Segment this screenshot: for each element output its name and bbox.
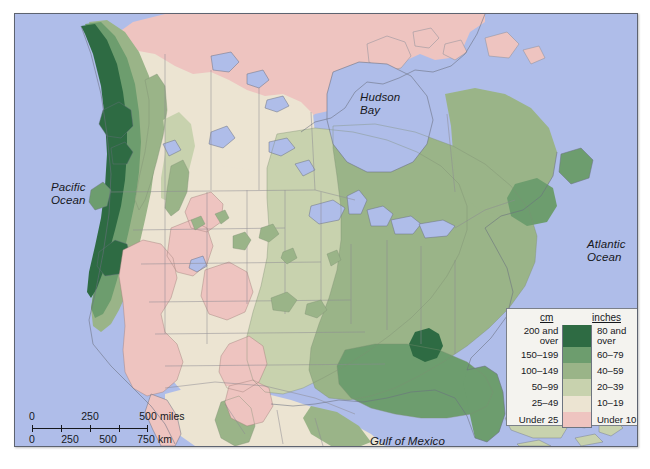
map-frame: Pacific Ocean Hudson Bay Atlantic Ocean …: [14, 13, 638, 447]
legend-swatch: [562, 412, 592, 428]
legend-inches-label: 40–59: [592, 363, 638, 379]
legend-cm-label: 200 and over: [512, 325, 562, 347]
legend-cm-label: 50–99: [512, 379, 562, 395]
legend-cm-label: Under 25: [512, 412, 562, 428]
legend-header-cm: cm: [540, 312, 553, 325]
scale-axis: [28, 425, 208, 432]
scale-km-labels: 0 250 500 750 km: [28, 433, 208, 447]
legend-swatch: [562, 363, 592, 379]
hudson-bay-label: Hudson Bay: [360, 91, 400, 117]
legend-swatch: [562, 347, 592, 363]
legend: cm inches 200 and over 80 and over 150–1…: [506, 308, 638, 426]
legend-swatch: [562, 396, 592, 412]
legend-cm-label: 150–199: [512, 347, 562, 363]
legend-row: 100–149 40–59: [512, 363, 638, 379]
legend-row: 200 and over 80 and over: [512, 325, 638, 347]
legend-row: 25–49 10–19: [512, 396, 638, 412]
gulf-of-mexico-label: Gulf of Mexico: [370, 435, 445, 447]
legend-swatch: [562, 325, 592, 347]
legend-cm-label: 25–49: [512, 396, 562, 412]
legend-row: 150–199 60–79: [512, 347, 638, 363]
legend-inches-label: 60–79: [592, 347, 638, 363]
scale-bar: 0 250 500 miles 0 250 500 750 km: [28, 410, 208, 447]
legend-inches-label: 10–19: [592, 396, 638, 412]
legend-inches-label: Under 10: [592, 412, 638, 428]
legend-row: 50–99 20–39: [512, 379, 638, 395]
atlantic-ocean-label: Atlantic Ocean: [587, 238, 626, 264]
legend-header-inches: inches: [592, 312, 621, 325]
legend-swatch: [562, 379, 592, 395]
legend-inches-label: 20–39: [592, 379, 638, 395]
legend-cm-label: 100–149: [512, 363, 562, 379]
legend-row: Under 25 Under 10: [512, 412, 638, 428]
legend-inches-label: 80 and over: [592, 325, 638, 347]
map-screenshot: Pacific Ocean Hudson Bay Atlantic Ocean …: [0, 0, 650, 469]
legend-header: cm inches: [512, 312, 638, 325]
pacific-ocean-label: Pacific Ocean: [51, 181, 86, 207]
scale-miles-labels: 0 250 500 miles: [28, 410, 208, 425]
